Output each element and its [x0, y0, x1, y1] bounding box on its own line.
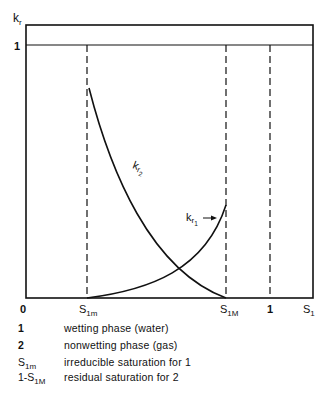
legend-key: 2: [18, 339, 24, 351]
kr2-curve: [89, 88, 226, 298]
legend-desc: irreducible saturation for 1: [64, 356, 191, 368]
x-tick-one: 1: [267, 303, 273, 315]
x-tick-zero: 0: [20, 303, 26, 315]
legend-desc: wetting phase (water): [64, 322, 169, 334]
legend-key: 1: [18, 322, 24, 334]
y-axis-label: kr: [13, 11, 22, 27]
legend-key: 1-S1M: [18, 371, 45, 386]
x-tick-s1m: S1m: [79, 303, 98, 318]
legend-desc: nonwetting phase (gas): [64, 339, 178, 351]
kr1-arrowhead-icon: [211, 216, 217, 221]
legend-key: S1m: [18, 356, 36, 371]
x-axis-label: S1: [303, 303, 315, 318]
kr2-label: kr2: [130, 159, 147, 178]
y-tick-one: 1: [14, 40, 20, 52]
legend-desc: residual saturation for 2: [64, 371, 179, 383]
kr1-curve: [87, 205, 226, 298]
x-tick-s1M: S1M: [220, 303, 239, 318]
relative-permeability-diagram: kr 1 0 S1m S1M 1 S1 kr2 kr1: [0, 0, 330, 396]
kr1-label: kr1: [186, 211, 198, 227]
